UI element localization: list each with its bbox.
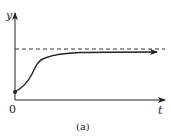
diagram: y 0 t (a) (0, 0, 171, 137)
figure-caption: (a) (76, 121, 90, 132)
x-axis-label: t (158, 104, 163, 117)
initial-point (13, 90, 17, 94)
y-axis-label: y (5, 9, 13, 22)
solution-curve (15, 52, 157, 92)
origin-label: 0 (9, 103, 16, 116)
